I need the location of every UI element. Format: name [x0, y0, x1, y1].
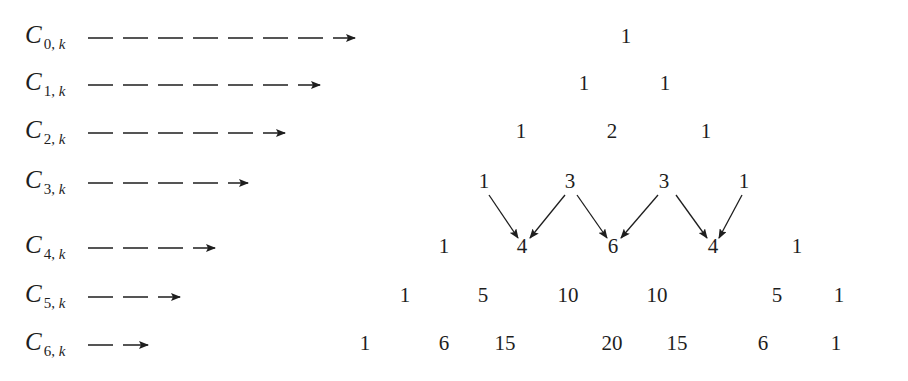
sum-arrow-0 — [489, 195, 518, 238]
sum-arrow-2 — [577, 195, 607, 238]
arrows-layer — [0, 0, 908, 381]
sum-arrow-5 — [719, 195, 742, 238]
sum-arrow-4 — [676, 195, 707, 238]
sum-arrow-1 — [530, 195, 565, 238]
sum-arrow-3 — [621, 195, 658, 238]
